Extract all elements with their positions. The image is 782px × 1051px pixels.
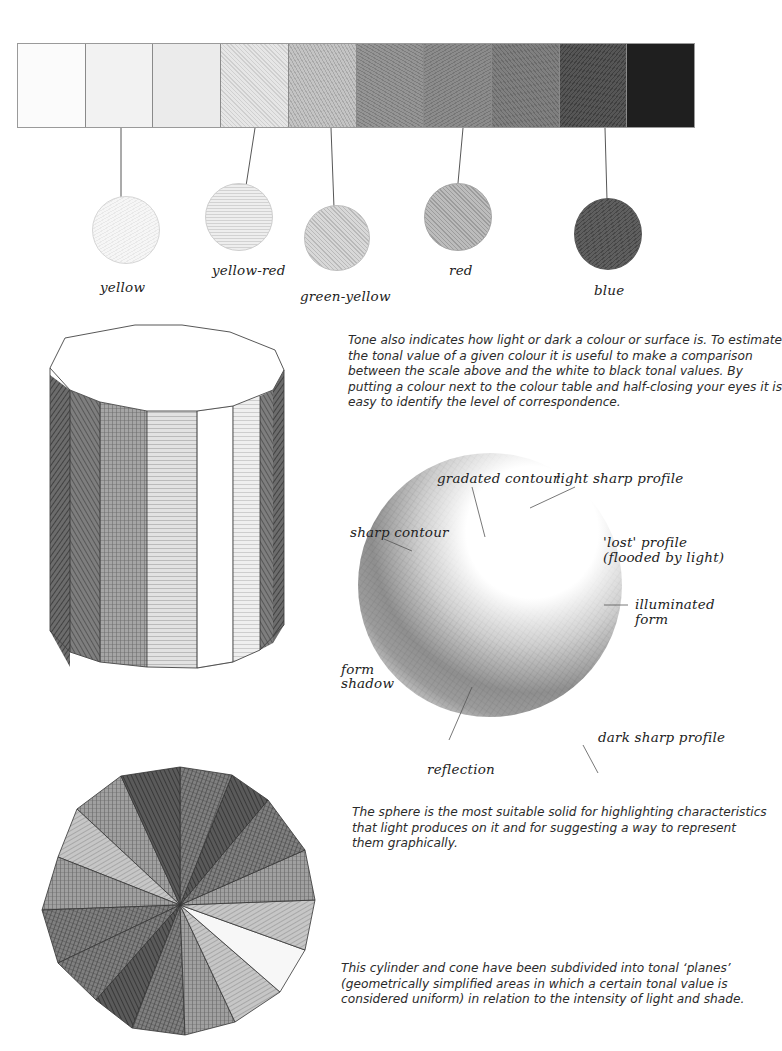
label-light-sharp-profile: light sharp profile: [556, 470, 683, 486]
swatch-label-yellow: yellow: [100, 279, 145, 295]
swatch-label-green-yellow: green-yellow: [300, 288, 391, 304]
label-reflection: reflection: [427, 761, 495, 777]
label-gradated-contour: gradated contour: [437, 470, 559, 486]
paragraph-line: the tonal value of a given colour it is …: [348, 349, 782, 365]
paragraph-line: them graphically.: [352, 836, 767, 852]
label-lost-profile: 'lost' profile: [603, 534, 687, 550]
paragraph-line: between the scale above and the white to…: [348, 364, 782, 380]
label-dark-sharp-profile: dark sharp profile: [598, 729, 725, 745]
label-sharp-contour: sharp contour: [350, 524, 449, 540]
label-illuminated-form: illuminated: [635, 596, 715, 612]
paragraph-line: easy to identify the level of correspond…: [348, 395, 782, 411]
planes-explanation-paragraph: This cylinder and cone have been subdivi…: [341, 961, 744, 1008]
tone-explanation-paragraph: Tone also indicates how light or dark a …: [348, 333, 782, 411]
sphere-explanation-paragraph: The sphere is the most suitable solid fo…: [352, 805, 767, 852]
label-form-shadow-sub: shadow: [341, 675, 394, 691]
swatch-green-yellow: [304, 205, 370, 271]
swatch-yellow: [92, 196, 160, 264]
paragraph-line: This cylinder and cone have been subdivi…: [341, 961, 744, 977]
label-lost-profile-sub: (flooded by light): [603, 549, 724, 565]
swatch-label-yellow-red: yellow-red: [212, 262, 286, 278]
swatch-yellow-red: [205, 183, 273, 251]
paragraph-line: Tone also indicates how light or dark a …: [348, 333, 782, 349]
swatch-blue: [574, 198, 642, 270]
paragraph-line: that light produces on it and for sugges…: [352, 821, 767, 837]
label-illuminated-form-sub: form: [635, 611, 668, 627]
paragraph-line: The sphere is the most suitable solid fo…: [352, 805, 767, 821]
swatch-label-blue: blue: [594, 282, 624, 298]
swatch-label-red: red: [449, 262, 473, 278]
paragraph-line: (geometrically simplified areas in which…: [341, 977, 744, 993]
swatch-connector-lines: [0, 0, 746, 220]
swatch-red: [424, 183, 492, 251]
faceted-cone-top-view-illustration: [0, 760, 330, 1050]
paragraph-line: putting a colour next to the colour tabl…: [348, 380, 782, 396]
paragraph-line: considered uniform) in relation to the i…: [341, 992, 744, 1008]
